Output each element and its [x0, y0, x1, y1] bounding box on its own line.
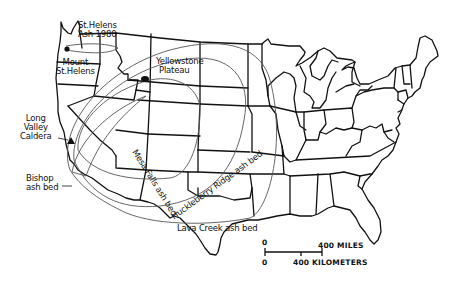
scale-zero-top: 0 — [262, 238, 267, 247]
scale-miles: 400 MILES — [318, 241, 364, 250]
label-line: ash bed — [26, 183, 58, 192]
ash-bed-map: St.Helens Ash 1980 Mount St.Helens Yello… — [0, 0, 465, 293]
label-line: Plateau — [156, 66, 204, 75]
label-long-valley-caldera: Long Valley Caldera — [20, 114, 51, 141]
label-line: Caldera — [20, 132, 51, 141]
label-yellowstone-plateau: Yellowstone Plateau — [156, 57, 204, 75]
yellowstone-marker — [141, 76, 149, 82]
label-bishop-ash-bed: Bishop ash bed — [26, 174, 58, 192]
long-valley-marker — [67, 137, 75, 144]
scale-zero-bottom: 0 — [262, 258, 267, 267]
label-st-helens-ash: St.Helens Ash 1980 — [78, 21, 117, 39]
label-mount-st-helens: Mount St.Helens — [56, 58, 95, 76]
label-lava-creek-ash-bed: Lava Creek ash bed — [177, 224, 257, 233]
scale-kilometers: 400 KILOMETERS — [293, 258, 368, 267]
mount-st-helens-marker — [64, 46, 69, 51]
st-helens-ash-plume — [66, 44, 118, 53]
bishop-ash-outline — [72, 96, 146, 176]
scale-bar — [265, 248, 322, 256]
us-border — [56, 21, 438, 255]
us-outline-map — [0, 0, 465, 293]
label-line: Ash 1980 — [78, 30, 117, 39]
label-line: St.Helens — [56, 67, 95, 76]
